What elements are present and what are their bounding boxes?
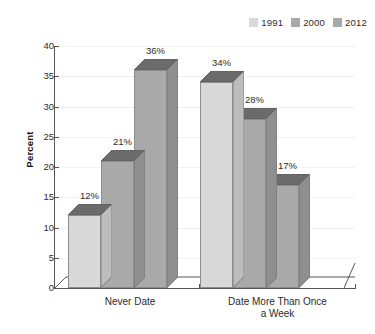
bar-value-label: 28% (245, 95, 264, 105)
y-axis-tick-mark (54, 137, 59, 138)
bar-side-face (167, 59, 178, 288)
bar-side-face (134, 150, 145, 288)
bar-value-label: 34% (212, 58, 231, 68)
bar-1991-never-date (68, 204, 101, 288)
bar-chart: 1991 2000 2012 Percent 4035302520151050 … (0, 0, 375, 334)
bar-side-face (266, 108, 277, 288)
bar-value-label: 12% (80, 191, 99, 201)
bar-1991-date-more-than-once-a-week (200, 71, 233, 288)
bar-value-label: 36% (146, 46, 165, 56)
bar-side-face (233, 71, 244, 288)
y-axis-tick-mark (54, 197, 59, 198)
y-axis-tick-mark (54, 258, 59, 259)
bar-side-face (101, 204, 112, 288)
y-axis-tick-mark (54, 288, 59, 289)
y-axis-tick-mark (54, 228, 59, 229)
bar-side-face (299, 174, 310, 288)
y-axis-tick-mark (54, 46, 59, 47)
bar-value-label: 21% (113, 137, 132, 147)
y-axis-tick-mark (54, 76, 59, 77)
y-axis-tick-mark (54, 167, 59, 168)
floor-right-edge (344, 262, 364, 292)
category-label-line: Never Date (60, 296, 200, 308)
x-axis-separator (199, 284, 200, 289)
bar-front-face (200, 82, 233, 288)
category-label-line: Date More Than Once (195, 296, 360, 308)
category-label-date-more-than-once-a-week: Date More Than Once a Week (195, 296, 360, 320)
bar-value-label: 17% (278, 161, 297, 171)
bar-front-face (68, 215, 101, 288)
y-axis-tick-mark (54, 107, 59, 108)
x-axis-line (54, 288, 356, 289)
category-label-never-date: Never Date (60, 296, 200, 308)
category-label-line: a Week (195, 308, 360, 320)
